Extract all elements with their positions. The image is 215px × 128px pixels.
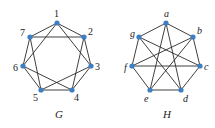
vertex-g — [136, 34, 141, 39]
edge-c-g — [139, 37, 200, 66]
vertex-label-3: 3 — [95, 61, 100, 72]
vertex-b — [190, 34, 195, 39]
edge-b-f — [132, 37, 193, 66]
edge-b-c — [193, 37, 200, 66]
edge-e-f — [132, 66, 150, 90]
vertex-5 — [38, 87, 43, 92]
vertex-a — [163, 20, 168, 25]
vertex-label-6: 6 — [13, 62, 18, 73]
vertex-label-g: g — [130, 28, 135, 39]
vertex-label-5: 5 — [33, 92, 38, 103]
vertex-2 — [81, 34, 86, 39]
vertex-label-4: 4 — [74, 92, 79, 103]
graph-label-h: H — [162, 108, 172, 120]
vertex-7 — [27, 34, 32, 39]
vertex-label-d: d — [183, 93, 189, 104]
vertex-label-1: 1 — [54, 8, 59, 19]
vertex-label-b: b — [197, 25, 202, 36]
edge-a-g — [139, 23, 166, 37]
vertex-label-a: a — [164, 8, 169, 19]
graph-g: 1234567G — [13, 8, 100, 120]
edge-c-d — [181, 66, 200, 90]
vertex-1 — [54, 20, 59, 25]
edge-a-b — [166, 23, 193, 37]
edge-f-g — [132, 37, 139, 66]
vertex-c — [197, 63, 202, 68]
graph-label-g: G — [55, 108, 63, 120]
vertex-label-7: 7 — [20, 27, 25, 38]
graph-diagram: 1234567G abcdefgH — [0, 0, 215, 128]
edge-1-2 — [57, 23, 84, 37]
vertex-3 — [88, 63, 93, 68]
vertex-label-f: f — [124, 62, 128, 73]
vertex-label-c: c — [204, 61, 209, 72]
vertex-f — [129, 63, 134, 68]
vertex-6 — [20, 63, 25, 68]
vertex-e — [147, 87, 152, 92]
vertex-label-e: e — [144, 93, 149, 104]
edge-7-1 — [30, 23, 57, 37]
vertex-label-2: 2 — [88, 26, 93, 37]
graph-h: abcdefgH — [124, 8, 209, 120]
vertex-d — [178, 87, 183, 92]
